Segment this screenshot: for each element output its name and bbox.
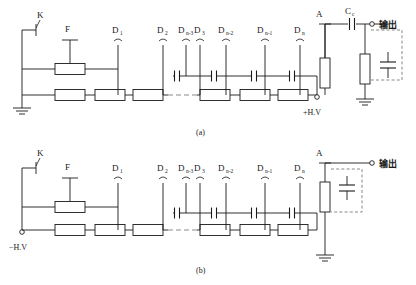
focus-f-label-a: F	[65, 24, 70, 34]
decoupling-capacitor-a-1	[210, 71, 219, 82]
decoupling-capacitor-b-1	[210, 208, 219, 219]
output-ground-a	[356, 99, 374, 105]
output-a-label: 输出	[379, 19, 397, 30]
focus-electrode-f-a: F	[62, 24, 78, 69]
dynode-b-n1-sub: n-1	[265, 168, 273, 174]
dynode-b-n1-label: D	[257, 163, 264, 173]
dynode-a-1: D 1	[112, 25, 123, 95]
focus-electrode-f-b: F	[62, 162, 78, 207]
cathode-ground-a	[13, 100, 31, 114]
dynode-a-3-label: D	[194, 25, 201, 35]
dynode-b-n-label: D	[294, 163, 301, 173]
output-terminal-a[interactable]: 输出	[370, 19, 397, 30]
resistor-focus-b	[55, 202, 85, 213]
decoupling-capacitor-b-4	[173, 208, 197, 219]
dynode-b-n3: D n-3	[178, 163, 194, 213]
dynode-b-2: D 2	[157, 163, 168, 230]
dynode-b-1: D 1	[112, 163, 123, 230]
anode-load-resistor-b	[320, 182, 330, 212]
dynode-a-n2-sub: n-2	[226, 30, 234, 36]
dynode-b-n3-label: D	[178, 163, 185, 173]
dynode-b-n2-sub: n-2	[226, 168, 234, 174]
panel-a: K F	[13, 6, 402, 137]
panel-a-caption: (a)	[196, 128, 205, 137]
circuit-diagram-svg: K F	[0, 0, 416, 285]
dynode-a-3: D 3	[194, 25, 205, 95]
resistor-b-6	[278, 225, 308, 236]
dynode-b-3-sub: 3	[202, 168, 205, 174]
dynode-a-2: D 2	[157, 25, 168, 95]
dynode-a-3-sub: 3	[202, 30, 205, 36]
dynode-a-n3-label: D	[178, 25, 185, 35]
dynode-a-n1: D n-1	[257, 25, 273, 95]
figure-canvas: K F	[0, 0, 416, 285]
switch-k-a[interactable]: K	[22, 10, 44, 100]
resistor-a-6	[278, 90, 308, 101]
resistor-a-5	[240, 90, 270, 101]
dynode-b-2-sub: 2	[165, 168, 168, 174]
resistor-focus-a	[55, 64, 85, 75]
dashed-load-capacitor-a	[371, 30, 402, 80]
dynode-a-n2: D n-2	[218, 25, 234, 95]
dynode-b-n3-sub: n-3	[186, 168, 194, 174]
dynode-a-n2-label: D	[218, 25, 225, 35]
resistor-b-3	[133, 225, 163, 236]
decoupling-capacitor-b-2	[250, 208, 259, 219]
dynode-a-n3: D n-3	[178, 25, 194, 76]
anode-b: A	[316, 148, 331, 182]
dashed-load-capacitor-b	[331, 169, 362, 212]
dynode-a-1-sub: 1	[120, 30, 123, 36]
dynode-b-3: D 3	[194, 163, 205, 230]
output-b-label: 输出	[379, 158, 397, 169]
hv-label-b: −H.V	[9, 243, 27, 252]
hv-label-a: +H.V	[303, 108, 321, 117]
dynode-b-n2-label: D	[218, 163, 225, 173]
hv-terminal-b[interactable]: −H.V	[9, 230, 27, 252]
dynode-a-n: D n	[294, 25, 305, 95]
output-terminal-b[interactable]: 输出	[370, 158, 397, 169]
dynode-a-n1-label: D	[257, 25, 264, 35]
switch-k-b[interactable]: K	[22, 148, 44, 230]
decoupling-capacitor-a-3	[288, 71, 297, 82]
resistor-a-1	[55, 90, 85, 101]
anode-b-label: A	[316, 148, 323, 158]
dynode-a-2-label: D	[157, 25, 164, 35]
load-resistor-a	[360, 54, 370, 84]
dynode-b-1-label: D	[112, 163, 119, 173]
dynode-a-n-label: D	[294, 25, 301, 35]
dynode-b-2-label: D	[157, 163, 164, 173]
dynode-a-1-label: D	[112, 25, 119, 35]
dynode-b-n1: D n-1	[257, 163, 273, 230]
decoupling-capacitor-a-4	[173, 71, 197, 82]
resistor-a-4	[200, 90, 230, 101]
decoupling-capacitor-b-3	[288, 208, 297, 219]
dynode-b-n-sub: n	[302, 168, 305, 174]
focus-f-label-b: F	[65, 162, 70, 172]
coupling-capacitor-a-sub: c	[352, 11, 355, 17]
panel-b-caption: (b)	[196, 266, 206, 275]
dynode-a-n1-sub: n-1	[265, 30, 273, 36]
resistor-a-3	[133, 90, 163, 101]
dynode-a-2-sub: 2	[165, 30, 168, 36]
resistor-b-1	[55, 225, 85, 236]
resistor-b-4	[200, 225, 230, 236]
dynode-b-n: D n	[294, 163, 305, 230]
anode-a: A	[316, 9, 331, 58]
dynode-a-n-sub: n	[302, 30, 305, 36]
decoupling-capacitor-a-2	[250, 71, 259, 82]
switch-k-label-b: K	[37, 148, 44, 158]
panel-b: K −H.V F	[9, 148, 397, 275]
dynode-b-1-sub: 1	[120, 168, 123, 174]
dynode-b-n2: D n-2	[218, 163, 234, 230]
resistor-b-2	[95, 225, 125, 236]
resistor-b-5	[240, 225, 270, 236]
anode-a-label: A	[316, 9, 323, 19]
dynode-a-n3-sub: n-3	[186, 30, 194, 36]
dynode-b-3-label: D	[194, 163, 201, 173]
coupling-capacitor-a-label: C	[345, 6, 351, 16]
anode-resistor-a	[320, 58, 330, 88]
resistor-a-2	[95, 90, 125, 101]
anode-ground-b	[316, 255, 334, 261]
switch-k-label-a: K	[37, 10, 44, 20]
